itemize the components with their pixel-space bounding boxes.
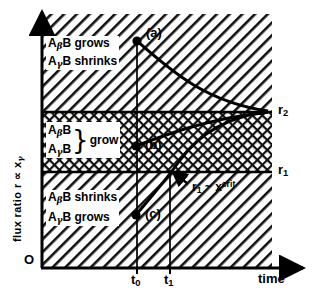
upper-region-line-2: AγB shrinks [48,55,117,69]
r1-level-label: r1 [278,163,288,179]
lower-region-line-1: AβB shrinks [48,191,117,205]
x-axis-label: time [258,272,285,286]
r2-level-label: r2 [278,103,288,119]
r1-label-subscript: 1 [283,168,288,178]
upper-region-label: AβB grows AγB shrinks [46,36,119,70]
origin-label: O [24,253,34,267]
x-tick-label-t1: t1 [164,273,174,289]
middle-band-line-1-head: A [48,123,57,137]
x-tick-label-t0: t0 [131,273,141,289]
upper-region-line-1: AβB grows [48,37,117,51]
upper-region-line-1-head: A [48,36,57,50]
curve-a-label: (a) [146,26,162,40]
y-axis-label-subscript: γ [16,156,25,162]
r2-label-subscript: 2 [283,108,288,118]
middle-band-line-2: AγB [48,142,71,157]
middle-band-label: AβB AγB } grow [46,122,120,158]
y-axis-label: flux ratio r ∝ xγ [11,156,25,242]
annotation-superscript: crit [222,179,235,189]
curve-a-start-dot [132,36,141,45]
annotation-mid: ~ x [201,180,221,194]
lower-region-line-1-tail: B shrinks [62,190,117,204]
middle-band-species: AβB AγB [48,123,71,157]
curve-b-label: (b) [145,138,162,152]
lower-region-label: AβB shrinks AγB grows [46,190,119,226]
middle-band-line-1-tail: B [62,123,71,137]
y-axis-label-text: flux ratio r ∝ x [11,162,23,242]
figure-flux-ratio-diagram: flux ratio r ∝ xγ O t0 t1 time r2 r1 AβB… [0,0,317,302]
middle-band-line-1: AβB [48,123,71,138]
curly-brace-icon: } [72,130,89,151]
upper-region-line-2-tail: B shrinks [62,54,117,68]
x-tick-t1-subscript: 1 [168,278,173,288]
middle-band-line-2-head: A [48,142,57,156]
curve-b-start-dot [131,141,140,150]
lower-region-line-1-head: A [48,190,57,204]
curve-c-label: (c) [145,207,161,221]
lower-region-line-2-tail: B grows [62,210,109,224]
r1-crit-annotation-label: r1 ~ xcrit [192,180,235,195]
lower-region-line-2-head: A [48,210,57,224]
middle-band-line-2-tail: B [62,142,71,156]
upper-region-line-1-tail: B grows [62,36,109,50]
lower-region-line-2: AγB grows [48,211,117,225]
upper-region-line-2-head: A [48,54,57,68]
middle-band-brace-label: grow [90,133,119,147]
curve-c-start-dot [131,210,140,219]
x-tick-t0-subscript: 0 [135,278,140,288]
